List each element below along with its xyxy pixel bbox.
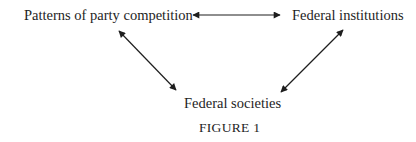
arrow-institutions-societies bbox=[281, 30, 343, 92]
arrow-party-societies bbox=[119, 31, 176, 90]
node-federal-institutions: Federal institutions bbox=[292, 8, 404, 23]
node-party-competition: Patterns of party competition bbox=[24, 8, 193, 23]
figure-caption: FIGURE 1 bbox=[199, 121, 260, 135]
node-federal-societies: Federal societies bbox=[184, 96, 281, 111]
figure-diagram: Patterns of party competition Federal in… bbox=[0, 0, 416, 142]
